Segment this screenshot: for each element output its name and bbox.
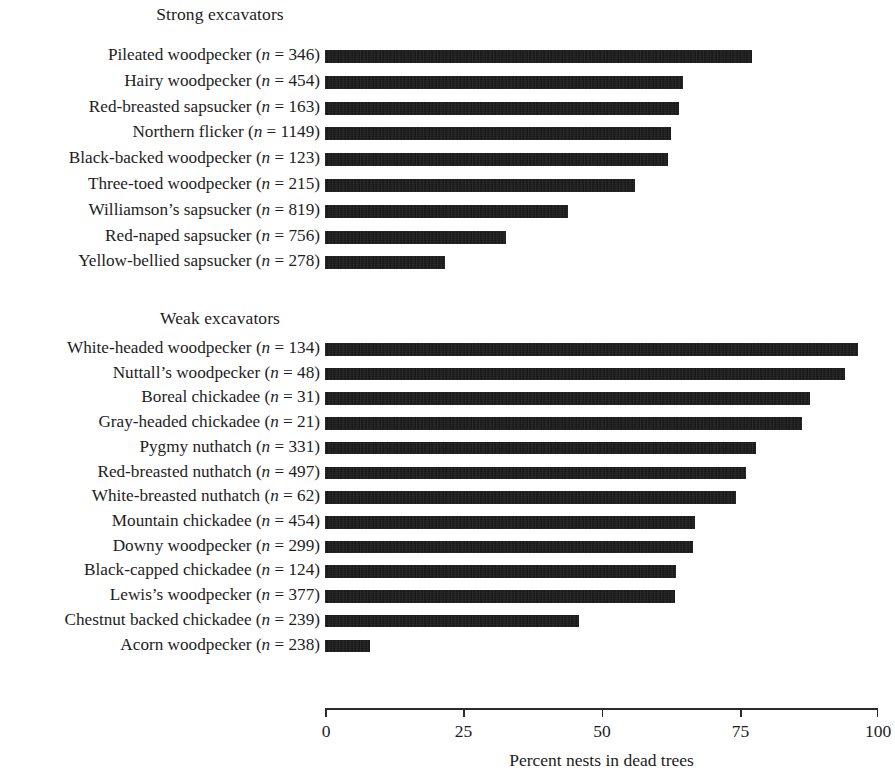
- species-name: Gray-headed chickadee (: [98, 412, 270, 431]
- bar-category-label: Gray-headed chickadee (n = 21): [98, 412, 320, 432]
- sample-size-symbol: n: [262, 437, 271, 456]
- species-name: Boreal chickadee (: [141, 387, 270, 406]
- bar: [325, 127, 671, 140]
- bar-track: [325, 127, 893, 140]
- chart-row: Black-backed woodpecker (n = 123): [0, 149, 895, 175]
- bar-track: [325, 467, 893, 480]
- chart-row: Williamson’s sapsucker (n = 819): [0, 201, 895, 227]
- species-name: Red-breasted nuthatch (: [97, 462, 261, 481]
- chart-row: Chestnut backed chickadee (n = 239): [0, 612, 895, 637]
- chart-row: Yellow-bellied sapsucker (n = 278): [0, 252, 895, 278]
- species-name: White-breasted nuthatch (: [92, 486, 270, 505]
- bar-track: [325, 417, 893, 430]
- bar-track: [325, 343, 893, 356]
- chart-row: White-breasted nuthatch (n = 62): [0, 488, 895, 513]
- chart-row: Red-breasted sapsucker (n = 163): [0, 98, 895, 124]
- bar-track: [325, 392, 893, 405]
- sample-size-value: = 21): [279, 412, 320, 431]
- bar: [325, 179, 635, 192]
- sample-size-symbol: n: [262, 251, 271, 270]
- species-name: Pygmy nuthatch (: [139, 437, 261, 456]
- chart-row: Black-capped chickadee (n = 124): [0, 562, 895, 587]
- species-name: Hairy woodpecker (: [124, 71, 261, 90]
- sample-size-symbol: n: [262, 462, 271, 481]
- species-name: Red-breasted sapsucker (: [89, 97, 262, 116]
- bar-track: [325, 205, 893, 218]
- sample-size-symbol: n: [262, 148, 271, 167]
- bar-track: [325, 179, 893, 192]
- bar: [325, 153, 668, 166]
- species-name: Nuttall’s woodpecker (: [113, 363, 271, 382]
- species-name: Yellow-bellied sapsucker (: [78, 251, 261, 270]
- sample-size-value: = 454): [270, 71, 320, 90]
- x-axis-tick-label-50: 50: [593, 721, 611, 742]
- bar: [325, 102, 679, 115]
- bar: [325, 343, 858, 356]
- x-axis: 0 25 50 75 100: [325, 708, 878, 709]
- chart-row: Pygmy nuthatch (n = 331): [0, 439, 895, 464]
- sample-size-symbol: n: [270, 486, 279, 505]
- species-name: Northern flicker (: [132, 122, 253, 141]
- bar-category-label: Red-naped sapsucker (n = 756): [105, 226, 320, 246]
- sample-size-symbol: n: [262, 635, 271, 654]
- species-name: Mountain chickadee (: [112, 511, 262, 530]
- sample-size-symbol: n: [270, 387, 279, 406]
- sample-size-value: = 299): [270, 536, 320, 555]
- chart-row: Acorn woodpecker (n = 238): [0, 637, 895, 662]
- bar-group-weak-excavators: White-headed woodpecker (n = 134)Nuttall…: [0, 340, 895, 661]
- species-name: Black-capped chickadee (: [84, 560, 262, 579]
- bar-category-label: Yellow-bellied sapsucker (n = 278): [78, 251, 320, 271]
- bar-track: [325, 590, 893, 603]
- sample-size-symbol: n: [262, 200, 271, 219]
- bar: [325, 76, 683, 89]
- bar: [325, 565, 676, 578]
- species-name: Downy woodpecker (: [113, 536, 262, 555]
- sample-size-value: = 48): [279, 363, 320, 382]
- chart-row: Three-toed woodpecker (n = 215): [0, 175, 895, 201]
- species-name: Black-backed woodpecker (: [69, 148, 262, 167]
- species-name: Williamson’s sapsucker (: [89, 200, 262, 219]
- chart-row: Red-naped sapsucker (n = 756): [0, 227, 895, 253]
- bar: [325, 491, 736, 504]
- sample-size-symbol: n: [262, 45, 271, 64]
- group-heading-weak-excavators: Weak excavators: [0, 308, 440, 329]
- bar-category-label: White-breasted nuthatch (n = 62): [92, 486, 320, 506]
- chart-row: Pileated woodpecker (n = 346): [0, 46, 895, 72]
- species-name: Three-toed woodpecker (: [88, 174, 262, 193]
- species-name: Chestnut backed chickadee (: [65, 610, 262, 629]
- x-axis-tick-label-25: 25: [455, 721, 473, 742]
- bar-chart-figure: Strong excavators Pileated woodpecker (n…: [0, 0, 895, 779]
- sample-size-value: = 756): [270, 226, 320, 245]
- bar-category-label: Pygmy nuthatch (n = 331): [139, 437, 320, 457]
- sample-size-symbol: n: [262, 226, 271, 245]
- chart-row: Mountain chickadee (n = 454): [0, 513, 895, 538]
- sample-size-value: = 31): [279, 387, 320, 406]
- sample-size-value: = 62): [279, 486, 320, 505]
- sample-size-value: = 497): [270, 462, 320, 481]
- bar-category-label: Northern flicker (n = 1149): [132, 122, 320, 142]
- bar-group-strong-excavators: Pileated woodpecker (n = 346)Hairy woodp…: [0, 46, 895, 278]
- bar-category-label: Black-backed woodpecker (n = 123): [69, 148, 320, 168]
- chart-row: Lewis’s woodpecker (n = 377): [0, 587, 895, 612]
- bar-category-label: Nuttall’s woodpecker (n = 48): [113, 363, 320, 383]
- bar: [325, 392, 810, 405]
- group-heading-strong-excavators: Strong excavators: [0, 4, 440, 25]
- x-axis-tick-100: [877, 708, 879, 717]
- sample-size-value: = 819): [270, 200, 320, 219]
- bar-category-label: Red-breasted nuthatch (n = 497): [97, 462, 320, 482]
- bar-category-label: Black-capped chickadee (n = 124): [84, 560, 320, 580]
- sample-size-value: = 239): [270, 610, 320, 629]
- bar-track: [325, 516, 893, 529]
- bar-category-label: Lewis’s woodpecker (n = 377): [110, 585, 320, 605]
- sample-size-symbol: n: [262, 338, 271, 357]
- bar-track: [325, 615, 893, 628]
- sample-size-value: = 124): [270, 560, 320, 579]
- species-name: White-headed woodpecker (: [67, 338, 262, 357]
- bar-category-label: Acorn woodpecker (n = 238): [120, 635, 320, 655]
- bar-category-label: Chestnut backed chickadee (n = 239): [65, 610, 321, 630]
- bar: [325, 516, 695, 529]
- x-axis-tick-label-0: 0: [322, 721, 331, 742]
- sample-size-value: = 163): [270, 97, 320, 116]
- chart-row: Downy woodpecker (n = 299): [0, 538, 895, 563]
- chart-row: Hairy woodpecker (n = 454): [0, 72, 895, 98]
